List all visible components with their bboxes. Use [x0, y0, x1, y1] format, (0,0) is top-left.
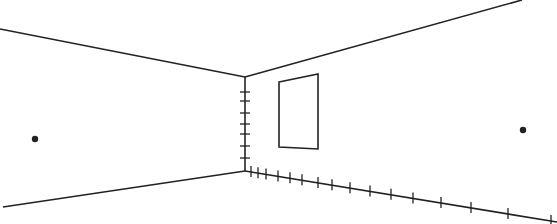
ceiling-right-edge: [245, 0, 522, 77]
ceiling-left-edge: [0, 29, 245, 77]
window-frame: [279, 74, 318, 149]
diagram-svg: [0, 0, 557, 224]
perspective-diagram: [0, 0, 557, 224]
floor-left-edge: [3, 171, 245, 207]
right-vanishing-point: [520, 127, 526, 133]
left-vanishing-point: [32, 136, 38, 142]
floor-right-edge: [245, 171, 557, 222]
floor-measure-ticks: [251, 166, 551, 224]
